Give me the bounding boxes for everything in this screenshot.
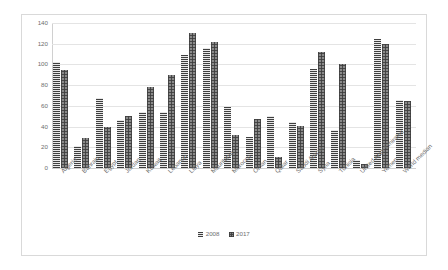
bars-layer [52,23,416,168]
y-tick-label: 0 [45,165,48,171]
legend-swatch-icon [229,232,234,237]
legend-item-2017[interactable]: 2017 [229,231,250,237]
legend-swatch-icon [198,232,203,237]
y-tick-label: 60 [41,103,48,109]
y-tick-label: 140 [38,20,48,26]
bar-2017[interactable] [168,75,175,168]
bar-group [395,23,416,168]
bar-2008[interactable] [267,116,274,168]
bar-group [288,23,309,168]
bar-2008[interactable] [331,130,338,168]
bar-2017[interactable] [61,70,68,168]
legend-item-2008[interactable]: 2008 [198,231,219,237]
bar-2017[interactable] [189,33,196,168]
bar-2008[interactable] [74,146,81,168]
y-tick-label: 80 [41,82,48,88]
bar-group [52,23,73,168]
y-tick-label: 20 [41,144,48,150]
legend-label: 2008 [206,231,220,237]
x-axis-labels: AlgeriaBahrainEgyptJordanKuwaitLebanonLi… [52,170,416,232]
bar-2008[interactable] [203,48,210,168]
bar-2008[interactable] [53,62,60,168]
bar-group [138,23,159,168]
bar-group [223,23,244,168]
bar-2008[interactable] [117,120,124,168]
y-tick-label: 40 [41,123,48,129]
y-tick-label: 120 [38,41,48,47]
chart-legend: 20082017 [22,231,426,237]
bar-group [159,23,180,168]
bar-2017[interactable] [339,64,346,168]
bar-group [266,23,287,168]
bar-group [352,23,373,168]
bar-group [245,23,266,168]
bar-group [116,23,137,168]
bar-2017[interactable] [211,42,218,168]
bar-group [95,23,116,168]
bar-group [330,23,351,168]
bar-group [73,23,94,168]
bar-group [180,23,201,168]
bar-2017[interactable] [147,87,154,168]
bar-2017[interactable] [404,101,411,168]
bar-group [202,23,223,168]
y-tick-label: 100 [38,61,48,67]
legend-label: 2017 [236,231,250,237]
bar-2008[interactable] [181,55,188,168]
chart-container: 020406080100120140 AlgeriaBahrainEgyptJo… [21,14,427,256]
plot-area: 020406080100120140 [52,23,416,168]
bar-2008[interactable] [289,122,296,168]
